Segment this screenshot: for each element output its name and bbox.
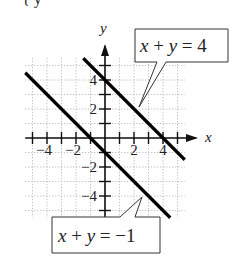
x-tick-label: −2	[65, 142, 81, 158]
x-tick-label: 4	[159, 142, 167, 158]
y-axis-label: y	[98, 20, 107, 36]
x-tick-label: 2	[130, 142, 138, 158]
y-tick-label: −4	[81, 188, 97, 204]
y-tick-label: 2	[90, 101, 98, 117]
callout-line-2: x + y = −1	[52, 197, 160, 253]
y-tick-label: −2	[81, 159, 97, 175]
axes	[25, 44, 198, 218]
callout-line-1: x + y = 4	[135, 29, 228, 107]
x-tick-label: −4	[36, 142, 52, 158]
y-axis-arrow-icon	[101, 44, 109, 56]
callout-label-2: x + y = −1	[57, 225, 136, 246]
x-axis-arrow-icon	[186, 134, 198, 142]
x-axis-label: x	[204, 129, 212, 145]
y-tick-label: 4	[90, 72, 98, 88]
callout-label-1: x + y = 4	[139, 35, 207, 56]
graph-figure: −4−22442−2−4 { y y x x + y = 4 x + y = −…	[0, 0, 234, 264]
top-fragment: { y	[22, 0, 42, 8]
